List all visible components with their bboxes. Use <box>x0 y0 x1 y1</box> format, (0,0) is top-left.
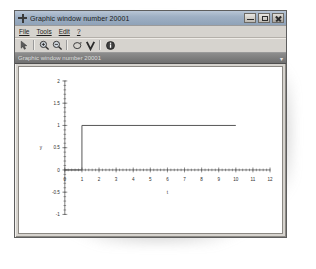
graphic-window: Graphic window number 20001 File Tools E… <box>14 10 287 238</box>
x-axis-label: t <box>167 190 169 195</box>
tab-label: Graphic window number 20001 <box>18 55 280 61</box>
chevron-down-icon[interactable]: ▾ <box>280 55 283 62</box>
zoom-in-icon[interactable] <box>38 39 50 51</box>
minimize-button[interactable] <box>244 13 256 23</box>
y-tick-label: 1 <box>57 123 60 128</box>
y-tick-label: 0 <box>57 168 60 173</box>
menu-item-file[interactable]: File <box>19 28 29 35</box>
x-tick-label: 1 <box>81 177 84 182</box>
x-tick-label: 2 <box>98 177 101 182</box>
pointer-select-icon[interactable] <box>18 39 30 51</box>
curve-group <box>65 125 236 169</box>
x-tick-label: 12 <box>267 177 273 182</box>
x-tick-label: 5 <box>149 177 152 182</box>
series-line <box>65 125 236 169</box>
x-tick-label: 3 <box>115 177 118 182</box>
toolbar-separator-1 <box>33 40 35 50</box>
info-icon[interactable] <box>104 39 116 51</box>
scilab-cross-icon <box>18 14 27 23</box>
y-tick-label: 0.5 <box>53 145 60 150</box>
y-tick-label: 2 <box>57 79 60 84</box>
x-tick-label: 6 <box>166 177 169 182</box>
tool-bar <box>15 38 286 53</box>
menu-item-tools[interactable]: Tools <box>36 28 51 35</box>
y-axis-label: y <box>40 145 43 150</box>
maximize-button[interactable] <box>258 13 270 23</box>
y-tick-label: -0.5 <box>52 190 60 195</box>
x-tick-label: 11 <box>251 177 256 182</box>
y-tick-label: 1.5 <box>53 101 60 106</box>
zoom-out-icon[interactable] <box>51 39 63 51</box>
title-bar[interactable]: Graphic window number 20001 <box>15 11 286 26</box>
close-button[interactable] <box>272 13 284 23</box>
menu-item-help[interactable]: ? <box>77 28 81 35</box>
plot-canvas[interactable]: 0123456789101112-1-0.500.511.52ty <box>18 66 283 234</box>
window-title: Graphic window number 20001 <box>30 15 244 22</box>
x-tick-label: 9 <box>217 177 220 182</box>
y-tick-label: -1 <box>56 212 61 217</box>
plot-svg: 0123456789101112-1-0.500.511.52ty <box>19 67 282 234</box>
docked-tab-strip[interactable]: Graphic window number 20001 ▾ <box>15 53 286 64</box>
x-tick-label: 10 <box>233 177 239 182</box>
x-tick-label: 8 <box>200 177 203 182</box>
x-tick-label: 4 <box>132 177 135 182</box>
axis-label-group: 0123456789101112-1-0.500.511.52ty <box>40 79 273 217</box>
datatip-icon[interactable] <box>84 39 96 51</box>
toolbar-separator-3 <box>99 40 101 50</box>
menu-item-edit[interactable]: Edit <box>59 28 70 35</box>
toolbar-separator-2 <box>66 40 68 50</box>
x-tick-label: 7 <box>183 177 186 182</box>
menu-bar: File Tools Edit ? <box>15 26 286 38</box>
window-controls <box>244 13 284 23</box>
x-tick-label: 0 <box>64 177 67 182</box>
rotate-3d-icon[interactable] <box>71 39 83 51</box>
